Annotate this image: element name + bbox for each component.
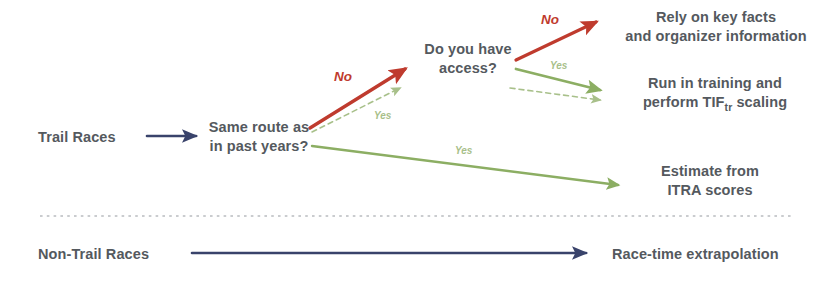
node-trail-races: Trail Races — [38, 128, 158, 147]
edge-label-label-no-2: No — [541, 12, 559, 27]
node-rely-key-facts: Rely on key facts and organizer informat… — [606, 8, 826, 46]
edge-label-label-no-1: No — [334, 69, 352, 84]
edge-access-no — [516, 22, 596, 60]
flowchart-diagram: Trail RacesSame route as in past years?D… — [0, 0, 828, 281]
edge-label-label-yes-2: Yes — [550, 60, 567, 71]
edge-label-label-yes-long: Yes — [455, 145, 472, 156]
node-do-you-have-access: Do you have access? — [410, 40, 526, 78]
node-estimate-itra: Estimate from ITRA scores — [630, 162, 790, 200]
node-label-subscript: tr — [725, 102, 733, 113]
node-run-in-training: Run in training and perform TIFtr scalin… — [620, 74, 810, 115]
edge-access-yes — [516, 69, 600, 90]
node-race-time-extrap: Race-time extrapolation — [612, 245, 822, 264]
node-same-route: Same route as in past years? — [198, 118, 320, 156]
node-non-trail-races: Non-Trail Races — [38, 245, 178, 264]
edge-label-label-yes-dash1: Yes — [374, 110, 391, 121]
edge-access-yes-dashed — [510, 88, 600, 100]
